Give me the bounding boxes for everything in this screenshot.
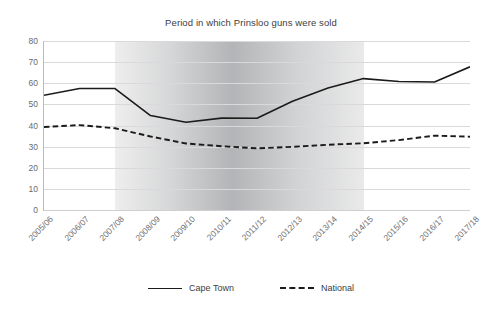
- solid-line-icon: [148, 284, 182, 293]
- x-axis-tick-labels: 2005/062006/072007/082008/092009/102010/…: [0, 214, 502, 270]
- y-axis-tick-labels: 01020304050607080: [0, 41, 38, 210]
- y-axis-tick-80: 80: [2, 36, 38, 46]
- series-line-national: [44, 125, 470, 148]
- legend-item-cape-town[interactable]: Cape Town: [148, 283, 234, 293]
- chart-container: Period in which Prinsloo guns were sold …: [0, 0, 502, 318]
- y-axis-tick-50: 50: [2, 99, 38, 109]
- legend-item-national[interactable]: National: [280, 283, 354, 293]
- legend-label-cape-town: Cape Town: [189, 283, 234, 293]
- y-axis-tick-60: 60: [2, 78, 38, 88]
- dashed-line-icon: [280, 284, 314, 293]
- y-axis-tick-70: 70: [2, 57, 38, 67]
- y-axis-tick-40: 40: [2, 121, 38, 131]
- chart-title: Period in which Prinsloo guns were sold: [0, 17, 502, 28]
- chart-legend: Cape Town National: [0, 283, 502, 293]
- y-axis-tick-10: 10: [2, 184, 38, 194]
- series-line-cape-town: [44, 67, 470, 123]
- y-axis-tick-20: 20: [2, 163, 38, 173]
- gridline-0: [44, 210, 470, 211]
- series-layer: [44, 41, 470, 210]
- plot-area: [44, 41, 470, 210]
- legend-label-national: National: [321, 283, 354, 293]
- y-axis-tick-30: 30: [2, 142, 38, 152]
- series-svg: [44, 41, 470, 210]
